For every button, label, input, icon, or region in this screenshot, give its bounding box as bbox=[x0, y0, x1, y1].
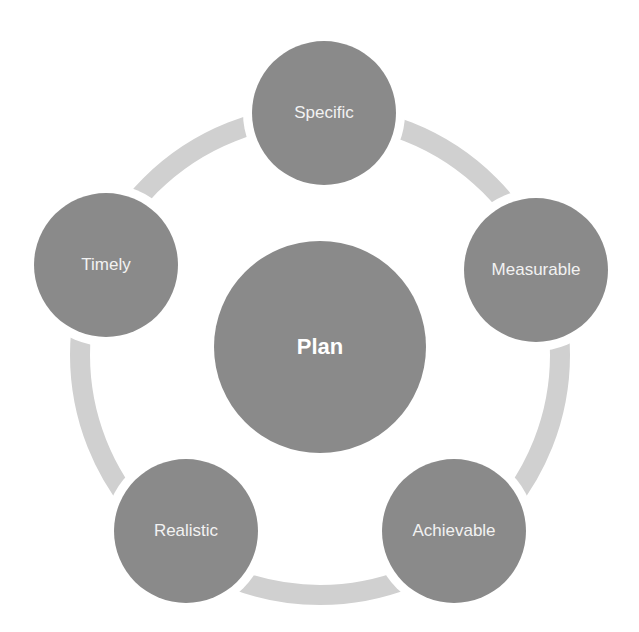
node-label: Realistic bbox=[154, 521, 218, 541]
center-label: Plan bbox=[297, 334, 343, 360]
node-measurable: Measurable bbox=[464, 198, 608, 342]
node-label: Specific bbox=[294, 103, 354, 123]
node-label: Timely bbox=[81, 255, 130, 275]
node-timely: Timely bbox=[34, 193, 178, 337]
smart-cycle-diagram: Specific Measurable Achievable Realistic… bbox=[0, 0, 639, 632]
node-label: Measurable bbox=[492, 260, 581, 280]
node-specific: Specific bbox=[252, 41, 396, 185]
node-achievable: Achievable bbox=[382, 459, 526, 603]
node-label: Achievable bbox=[412, 521, 495, 541]
center-node-plan: Plan bbox=[214, 241, 426, 453]
node-realistic: Realistic bbox=[114, 459, 258, 603]
